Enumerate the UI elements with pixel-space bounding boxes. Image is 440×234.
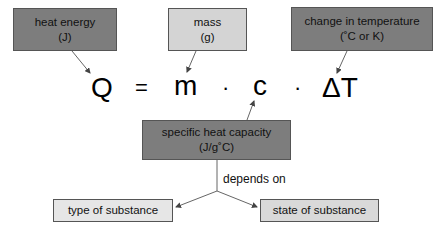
change-in-temperature-box: change in temperature (˚C or K) (291, 7, 433, 51)
heat-energy-box: heat energy (J) (13, 8, 117, 51)
change-in-temperature-unit: (˚C or K) (340, 29, 384, 44)
heat-energy-label: heat energy (35, 15, 96, 30)
equation-q: Q (91, 74, 113, 102)
equation-dot-2: · (294, 77, 301, 99)
change-in-temperature-label: change in temperature (304, 14, 419, 29)
specific-heat-capacity-label: specific heat capacity (162, 125, 271, 140)
mass-unit: (g) (200, 30, 214, 45)
specific-heat-capacity-box: specific heat capacity (J/g˚C) (142, 120, 291, 160)
state-of-substance-box: state of substance (260, 199, 379, 222)
heat-energy-unit: (J) (58, 30, 71, 45)
equation-m: m (174, 72, 197, 100)
equation-dot-1: · (222, 77, 229, 99)
mass-box: mass (g) (168, 8, 247, 51)
specific-heat-capacity-unit: (J/g˚C) (199, 140, 234, 155)
equation-equals: = (135, 77, 148, 99)
type-of-substance-label: type of substance (68, 203, 158, 218)
depends-on-label: depends on (223, 172, 286, 186)
state-of-substance-label: state of substance (273, 203, 366, 218)
type-of-substance-box: type of substance (53, 199, 173, 222)
equation-c: c (253, 72, 267, 100)
equation-delta-t: ΔT (322, 74, 358, 102)
mass-label: mass (194, 15, 221, 30)
